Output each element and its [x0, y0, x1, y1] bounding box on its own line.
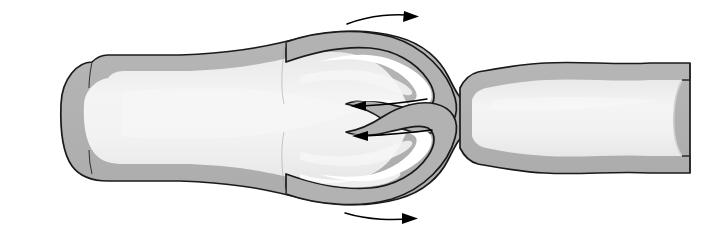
vein-lumen-right-fill: [472, 79, 682, 156]
vein-valve-illustration: [0, 0, 710, 236]
vein-valve-figure: [0, 0, 710, 236]
vein-segment-right: [460, 62, 690, 173]
